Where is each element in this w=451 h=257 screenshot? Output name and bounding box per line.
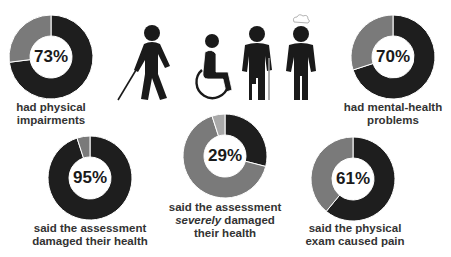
blind-person-with-cane-icon [118,25,170,100]
label-line: damaged their health [20,235,160,248]
pct-physical-impairments: 73% [21,47,81,67]
wheelchair-user-icon [196,34,232,98]
pct-mental-health: 70% [363,47,423,67]
pct-assessment-severely-damaged: 29% [195,146,255,166]
label-line: impairments [0,114,102,127]
label-text: damaged [221,214,275,226]
person-with-thought-cloud-icon [286,15,316,100]
label-line: had mental-health [333,101,451,114]
pct-assessment-damaged: 95% [60,168,120,188]
amputee-with-crutch-icon [242,26,272,100]
label-physical-exam-pain: said the physical exam caused pain [290,222,420,248]
label-line: said the assessment [155,201,295,214]
label-line: exam caused pain [290,235,420,248]
label-physical-impairments: had physical impairments [0,101,102,127]
label-line: had physical [0,101,102,114]
emphasis-severely: severely [175,214,221,226]
label-line: problems [333,114,451,127]
label-mental-health: had mental-health problems [333,101,451,127]
pct-physical-exam-pain: 61% [323,169,383,189]
label-line: said the assessment [20,222,160,235]
label-line: severely damaged [155,214,295,227]
label-assessment-severely-damaged: said the assessment severely damaged the… [155,201,295,240]
label-line: their health [155,227,295,240]
disability-icons-row [112,12,327,104]
label-line: said the physical [290,222,420,235]
label-assessment-damaged: said the assessment damaged their health [20,222,160,248]
